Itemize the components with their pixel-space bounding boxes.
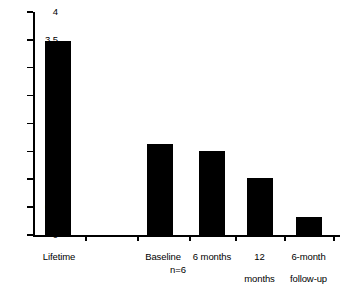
x-tick-mark: [85, 235, 87, 241]
x-label-line1: Lifetime: [43, 251, 75, 262]
x-label-baseline: Baseline: [137, 240, 189, 262]
x-label-line2: follow-up: [290, 273, 327, 284]
bar-lifetime: [45, 41, 71, 235]
sample-size-caption: n=6: [128, 265, 228, 275]
x-label-line1: Baseline: [145, 251, 181, 262]
x-label-line1: 12: [254, 251, 264, 262]
y-tick-label: 4: [6, 7, 58, 17]
bar-12-months: [247, 178, 273, 235]
bar-baseline: [147, 144, 173, 235]
x-axis-line: [33, 235, 340, 237]
x-label-6-month-follow-up: 6-month follow-up: [284, 240, 333, 284]
x-label-line1: 6 months: [193, 251, 231, 262]
bar-chart: 4 3.5 3 2.5 2 1.5 1 0.5 0 Lifetime Basel…: [0, 0, 351, 287]
x-label-6-months: 6 months: [189, 240, 235, 262]
bar-6-month-follow-up: [296, 217, 322, 235]
bar-6-months: [199, 151, 225, 235]
x-label-line1: 6-month: [291, 251, 325, 262]
x-label-lifetime: Lifetime: [33, 240, 85, 262]
x-tick-mark: [333, 235, 335, 241]
x-label-line2: months: [244, 273, 275, 284]
x-label-12-months: 12 months: [235, 240, 284, 284]
